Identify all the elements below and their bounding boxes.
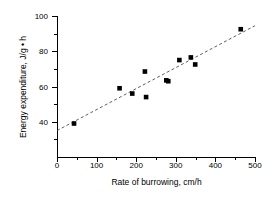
data-point <box>189 55 194 60</box>
trend-line-segment <box>57 26 255 131</box>
chart-figure: 406080100 0100200300400500 Rate of burro… <box>0 0 274 199</box>
data-point <box>166 79 171 84</box>
data-point <box>238 27 243 32</box>
data-point <box>117 86 122 91</box>
data-point <box>144 95 149 100</box>
data-point <box>177 58 182 63</box>
y-axis-title: Energy expenditure, J/g • h <box>18 12 28 162</box>
trend-line <box>57 26 255 131</box>
data-points <box>72 27 243 126</box>
data-point <box>193 62 198 67</box>
plot-data-layer <box>0 0 274 199</box>
data-point <box>130 91 135 96</box>
x-axis-title: Rate of burrowing, cm/h <box>57 177 256 187</box>
data-point <box>72 121 77 126</box>
data-point <box>143 69 148 74</box>
